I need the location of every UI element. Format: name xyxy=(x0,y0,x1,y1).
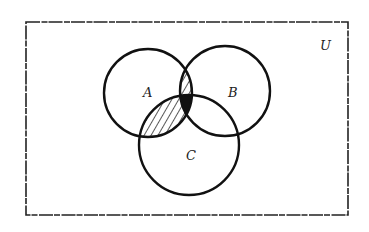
set-c-label: C xyxy=(186,148,196,163)
set-b-circle xyxy=(180,46,270,136)
set-a-label: A xyxy=(142,85,152,100)
universe-rectangle xyxy=(26,22,348,215)
set-b-label: B xyxy=(227,85,238,100)
universe-label: U xyxy=(320,38,332,53)
venn-diagram: A B C U xyxy=(0,0,369,232)
